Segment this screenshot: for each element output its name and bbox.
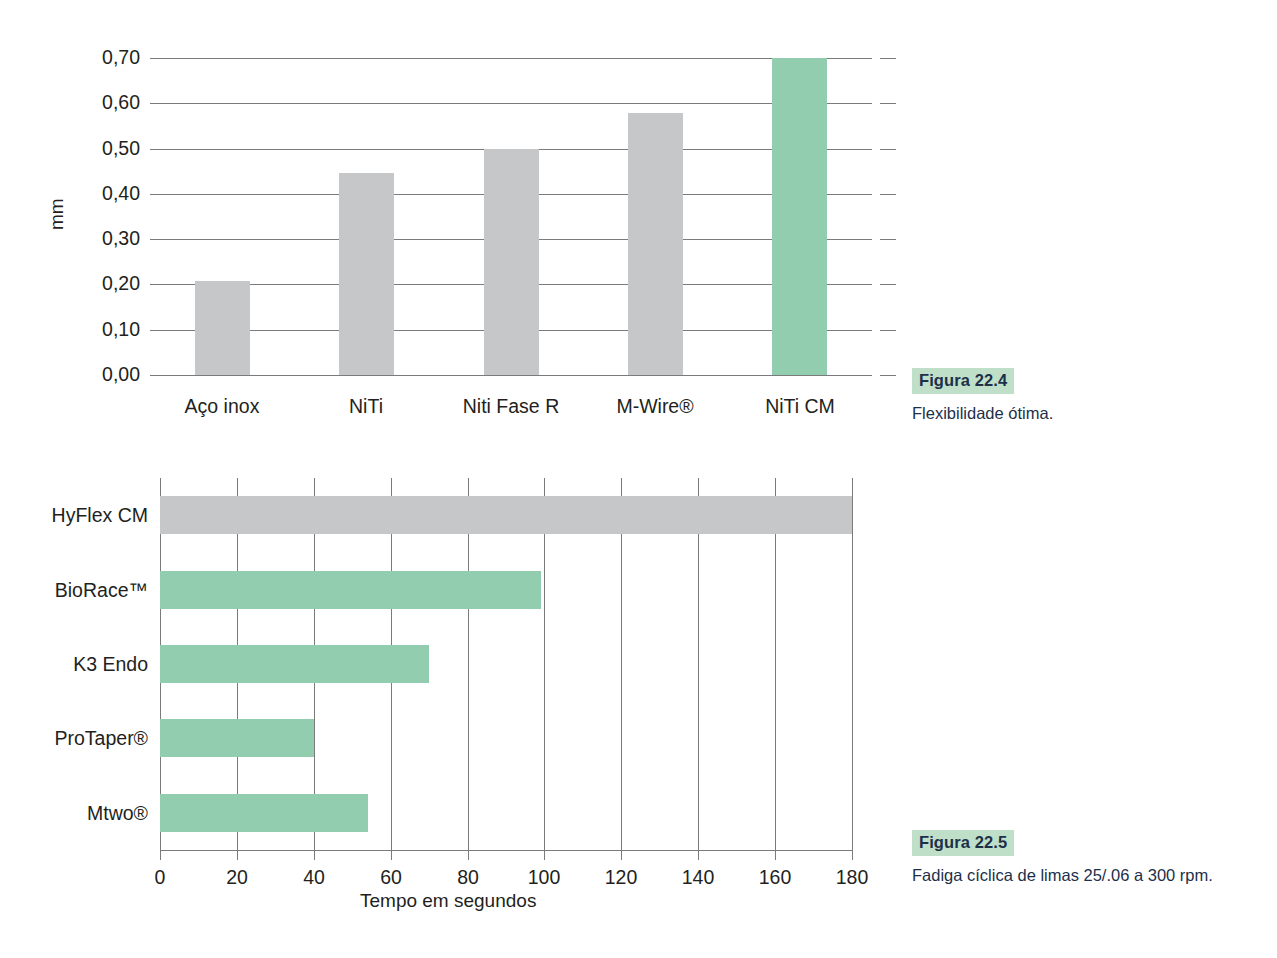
chart1-tick-mark [880, 239, 896, 240]
chart1-y-tick-label: 0,00 [88, 363, 140, 386]
figure-page: mm 0,000,100,200,300,400,500,600,70 Aço … [0, 0, 1277, 958]
figure-22-5-text: Fadiga cíclica de limas 25/.06 a 300 rpm… [912, 865, 1252, 886]
chart2-bar [160, 496, 852, 534]
chart2-gridline [852, 478, 853, 850]
figure-22-5-caption: Figura 22.5 Fadiga cíclica de limas 25/.… [912, 830, 1252, 886]
chart2-category-label: BioRace™ [0, 579, 148, 602]
chart2-tick-mark [698, 850, 699, 860]
chart1-y-tick-label: 0,60 [88, 91, 140, 114]
chart1-bar [484, 149, 539, 375]
chart2-x-tick-label: 100 [514, 866, 574, 889]
chart1-bar [195, 281, 250, 375]
chart2-tick-mark [544, 850, 545, 860]
chart1-gridline [150, 375, 872, 376]
chart2-category-label: Mtwo® [0, 802, 148, 825]
chart2-bar [160, 794, 368, 832]
chart1-category-label: NiTi CM [728, 395, 872, 418]
chart2-tick-mark [621, 850, 622, 860]
chart2-tick-mark [852, 850, 853, 860]
chart2-category-label: K3 Endo [0, 653, 148, 676]
figure-22-4-text: Flexibilidade ótima. [912, 403, 1252, 424]
chart1-tick-mark [880, 284, 896, 285]
chart2-tick-mark [237, 850, 238, 860]
chart1-bar [628, 113, 683, 375]
chart2-bar [160, 719, 314, 757]
chart2-tick-mark [160, 850, 161, 860]
chart2-x-tick-label: 80 [438, 866, 498, 889]
chart2-x-tick-label: 180 [822, 866, 882, 889]
chart2-x-axis-line [160, 850, 852, 851]
chart-flexibilidade: mm 0,000,100,200,300,400,500,600,70 Aço … [0, 0, 900, 420]
chart1-gridline [150, 58, 872, 59]
chart2-category-label: ProTaper® [0, 727, 148, 750]
chart1-category-label: M-Wire® [583, 395, 727, 418]
chart2-x-tick-label: 40 [284, 866, 344, 889]
chart2-x-tick-label: 120 [591, 866, 651, 889]
chart2-tick-mark [391, 850, 392, 860]
chart1-category-label: NiTi [294, 395, 438, 418]
chart2-x-tick-label: 20 [207, 866, 267, 889]
chart1-tick-mark [880, 194, 896, 195]
chart1-bar [772, 58, 827, 375]
chart2-bar [160, 645, 429, 683]
chart1-y-tick-label: 0,50 [88, 137, 140, 160]
chart1-tick-mark [880, 330, 896, 331]
figure-22-5-tag: Figura 22.5 [912, 830, 1014, 856]
chart1-category-label: Aço inox [150, 395, 294, 418]
chart2-bar [160, 571, 541, 609]
chart-fadiga-ciclica: HyFlex CMBioRace™K3 EndoProTaper®Mtwo® 0… [0, 460, 900, 940]
chart1-y-tick-label: 0,30 [88, 227, 140, 250]
chart2-x-tick-label: 60 [361, 866, 421, 889]
chart2-x-axis-title: Tempo em segundos [360, 890, 536, 912]
chart1-y-tick-label: 0,70 [88, 46, 140, 69]
chart1-y-tick-label: 0,10 [88, 318, 140, 341]
chart1-bar [339, 173, 394, 375]
chart2-tick-mark [775, 850, 776, 860]
chart1-y-tick-label: 0,40 [88, 182, 140, 205]
chart2-x-tick-label: 140 [668, 866, 728, 889]
chart2-tick-mark [468, 850, 469, 860]
chart1-y-tick-label: 0,20 [88, 272, 140, 295]
chart2-x-tick-label: 160 [745, 866, 805, 889]
chart2-category-label: HyFlex CM [0, 504, 148, 527]
chart2-tick-mark [314, 850, 315, 860]
chart1-y-axis-title: mm [46, 198, 68, 230]
chart1-category-label: Niti Fase R [439, 395, 583, 418]
figure-22-4-tag: Figura 22.4 [912, 368, 1014, 394]
chart1-tick-mark [880, 149, 896, 150]
chart1-tick-mark [880, 58, 896, 59]
chart1-tick-mark [880, 375, 896, 376]
chart2-x-tick-label: 0 [130, 866, 190, 889]
chart1-tick-mark [880, 103, 896, 104]
figure-22-4-caption: Figura 22.4 Flexibilidade ótima. [912, 368, 1252, 424]
chart1-gridline [150, 103, 872, 104]
